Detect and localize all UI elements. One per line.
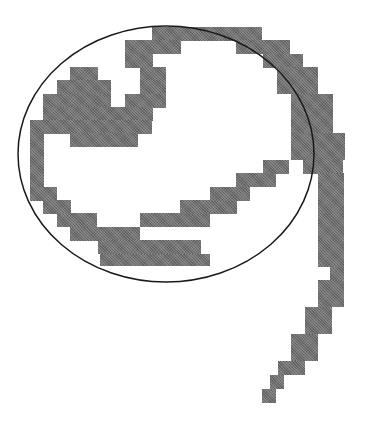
figure-canvas (0, 0, 382, 426)
ellipse-outline (0, 0, 382, 426)
